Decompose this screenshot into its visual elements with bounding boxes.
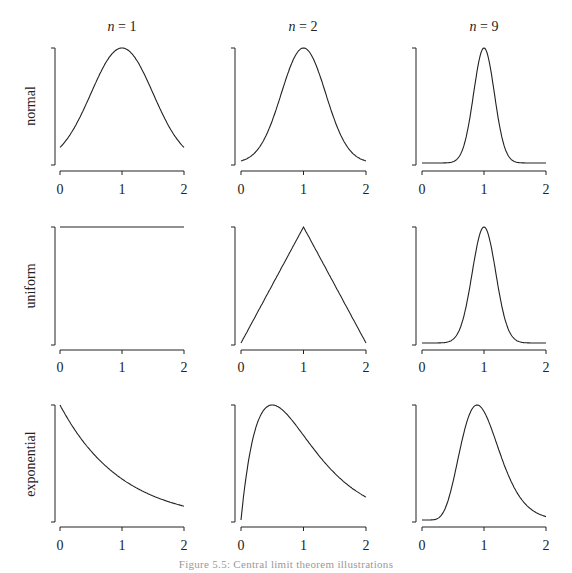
y-axis-normal-n1 — [51, 48, 55, 165]
y-axis-normal-n9 — [412, 48, 416, 165]
x-tick-label: 0 — [57, 538, 64, 553]
density-curve-uniform-n2 — [241, 227, 366, 343]
x-axis-exponential-n2 — [241, 527, 366, 531]
x-tick-label: 1 — [300, 538, 307, 553]
density-curve-exponential-n2 — [241, 405, 366, 520]
y-axis-exponential-n2 — [231, 405, 235, 522]
x-axis-normal-n9 — [422, 171, 546, 175]
clt-figure: n = 1 n = 2 n = 9 normal uniform exponen… — [0, 0, 572, 573]
x-axis-normal-n2 — [241, 171, 366, 175]
y-axis-normal-n2 — [231, 48, 235, 165]
x-axis-exponential-n9 — [422, 527, 546, 531]
density-curve-exponential-n1 — [60, 405, 184, 506]
x-axis-uniform-n2 — [241, 350, 366, 354]
x-tick-label: 2 — [181, 182, 188, 197]
x-tick-label: 2 — [363, 360, 370, 375]
x-tick-label: 0 — [419, 182, 426, 197]
density-curve-exponential-n9 — [422, 405, 546, 520]
row-labels: normal uniform exponential — [23, 86, 38, 497]
x-axis-uniform-n9 — [422, 350, 546, 354]
x-tick-label: 1 — [119, 538, 126, 553]
figure-caption: Figure 5.5: Central limit theorem illust… — [0, 558, 572, 570]
x-tick-label: 0 — [419, 538, 426, 553]
x-tick-label: 2 — [363, 538, 370, 553]
row-label-normal: normal — [23, 86, 38, 126]
y-axis-uniform-n9 — [412, 227, 416, 345]
y-axis-exponential-n1 — [51, 405, 55, 522]
x-axis-uniform-n1 — [60, 350, 184, 354]
density-curve-normal-n1 — [60, 48, 184, 147]
x-tick-label: 0 — [238, 538, 245, 553]
column-header-n9: n = 9 — [470, 19, 499, 34]
y-axis-exponential-n9 — [412, 405, 416, 522]
x-tick-label: 0 — [238, 182, 245, 197]
x-tick-label: 2 — [363, 182, 370, 197]
axes — [51, 48, 546, 531]
x-tick-label: 0 — [238, 360, 245, 375]
x-tick-label: 2 — [543, 538, 550, 553]
column-header-n1: n = 1 — [108, 19, 137, 34]
density-curves — [60, 48, 546, 520]
x-tick-label: 1 — [300, 182, 307, 197]
x-tick-label: 1 — [119, 182, 126, 197]
y-axis-uniform-n1 — [51, 227, 55, 345]
x-axis-exponential-n1 — [60, 527, 184, 531]
x-tick-label: 2 — [181, 360, 188, 375]
density-curve-uniform-n9 — [422, 227, 546, 343]
column-headers: n = 1 n = 2 n = 9 — [108, 19, 499, 34]
tick-labels: 012012012012012012012012012 — [57, 182, 550, 553]
y-axis-uniform-n2 — [231, 227, 235, 345]
row-label-uniform: uniform — [23, 263, 38, 308]
x-tick-label: 1 — [119, 360, 126, 375]
x-tick-label: 2 — [543, 360, 550, 375]
column-header-n2: n = 2 — [289, 19, 318, 34]
density-curve-normal-n2 — [241, 48, 366, 161]
x-tick-label: 1 — [481, 182, 488, 197]
density-curve-normal-n9 — [422, 48, 546, 163]
x-tick-label: 0 — [57, 182, 64, 197]
x-tick-label: 0 — [419, 360, 426, 375]
x-tick-label: 0 — [57, 360, 64, 375]
x-tick-label: 1 — [481, 538, 488, 553]
x-tick-label: 2 — [181, 538, 188, 553]
x-tick-label: 1 — [300, 360, 307, 375]
x-tick-label: 1 — [481, 360, 488, 375]
row-label-exponential: exponential — [23, 431, 38, 496]
x-axis-normal-n1 — [60, 171, 184, 175]
x-tick-label: 2 — [543, 182, 550, 197]
